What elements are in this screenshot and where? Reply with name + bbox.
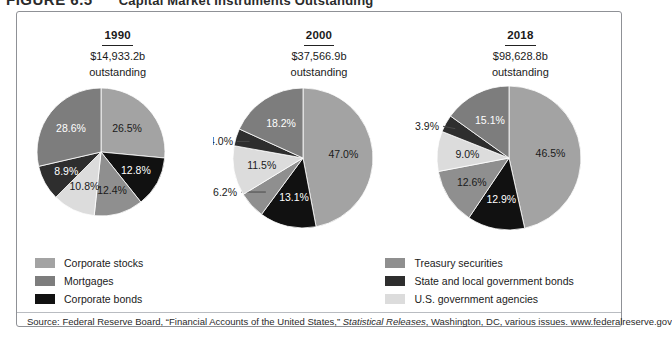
- legend-swatch-icon: [385, 276, 405, 286]
- pie-slice-label: 9.0%: [455, 148, 479, 160]
- year-label: 1990: [102, 27, 132, 46]
- pie-slice-label: 15.1%: [475, 114, 505, 126]
- legend-item-corporate-stocks: Corporate stocks: [35, 255, 143, 271]
- source-prefix: Source: Federal Reserve Board, “Financia…: [27, 316, 343, 327]
- legend-label: Corporate bonds: [64, 293, 142, 305]
- outstanding-label: outstanding: [17, 65, 218, 81]
- source-note: Source: Federal Reserve Board, “Financia…: [27, 316, 613, 327]
- pie-slice-label: 4.0%: [213, 135, 233, 147]
- legend-column-1: Corporate stocks Mortgages Corporate bon…: [35, 255, 143, 309]
- source-italic-title: Statistical Releases: [343, 316, 426, 327]
- chart-header-2018: 2018 $98,628.8b outstanding: [420, 22, 621, 81]
- source-divider: [17, 312, 621, 313]
- pie-slice-label: 28.6%: [56, 122, 86, 134]
- pie-slice-label: 26.5%: [112, 122, 142, 134]
- legend: Corporate stocks Mortgages Corporate bon…: [35, 255, 600, 309]
- pie-svg: 47.0%13.1%6.2%11.5%4.0%18.2%: [213, 80, 409, 248]
- legend-item-treasury-securities: Treasury securities: [385, 255, 573, 271]
- pie-slice-label: 18.2%: [266, 117, 296, 129]
- legend-swatch-icon: [385, 258, 405, 268]
- figure-caption: Capital Market Instruments Outstanding: [119, 0, 374, 8]
- amount-label: $98,628.8b: [420, 49, 621, 65]
- pie-slice-label: 12.6%: [457, 176, 487, 188]
- source-suffix: , Washington, DC, various issues. www.fe…: [426, 316, 672, 327]
- pie-slice-label: 11.5%: [247, 159, 276, 171]
- legend-label: Corporate stocks: [64, 257, 143, 269]
- outstanding-label: outstanding: [420, 65, 621, 81]
- pie-svg: 26.5%12.8%12.4%10.8%8.9%28.6%: [23, 80, 213, 240]
- legend-item-corporate-bonds: Corporate bonds: [35, 291, 143, 307]
- figure-title-strip: FIGURE 6.5 Capital Market Instruments Ou…: [0, 0, 638, 11]
- figure-number: FIGURE 6.5: [6, 0, 93, 8]
- pie-slice-label: 47.0%: [329, 148, 359, 160]
- pie-slice-label: 10.8%: [70, 180, 100, 192]
- legend-item-state-local-government-bonds: State and local government bonds: [385, 273, 573, 289]
- legend-label: Mortgages: [64, 275, 114, 287]
- pie-slice-label: 46.5%: [536, 147, 566, 159]
- legend-label: U.S. government agencies: [414, 293, 538, 305]
- pie-charts-row: 26.5%12.8%12.4%10.8%8.9%28.6% 47.0%13.1%…: [17, 80, 621, 250]
- legend-swatch-icon: [35, 276, 55, 286]
- pie-svg: 46.5%12.9%12.6%9.0%3.9%15.1%: [409, 80, 619, 248]
- amount-label: $37,566.9b: [218, 49, 419, 65]
- legend-swatch-icon: [35, 294, 55, 304]
- year-label: 2018: [505, 27, 535, 46]
- pie-slice-label: 13.1%: [279, 191, 309, 203]
- outstanding-label: outstanding: [218, 65, 419, 81]
- pie-chart-2018: 46.5%12.9%12.6%9.0%3.9%15.1%: [409, 80, 619, 248]
- pie-slice-label: 8.9%: [54, 165, 78, 177]
- legend-label: State and local government bonds: [414, 275, 573, 287]
- legend-item-us-government-agencies: U.S. government agencies: [385, 291, 573, 307]
- pie-slice-label: 12.8%: [121, 164, 151, 176]
- pie-slice-label: 3.9%: [415, 120, 439, 132]
- pie-slice-label: 12.9%: [486, 193, 516, 205]
- pie-chart-2000: 47.0%13.1%6.2%11.5%4.0%18.2%: [213, 80, 409, 248]
- legend-swatch-icon: [35, 258, 55, 268]
- pie-chart-1990: 26.5%12.8%12.4%10.8%8.9%28.6%: [23, 80, 213, 240]
- chart-header-2000: 2000 $37,566.9b outstanding: [218, 22, 419, 81]
- year-label: 2000: [304, 27, 334, 46]
- legend-column-2: Treasury securities State and local gove…: [385, 255, 573, 309]
- amount-label: $14,933.2b: [17, 49, 218, 65]
- legend-item-mortgages: Mortgages: [35, 273, 143, 289]
- figure-frame: 1990 $14,933.2b outstanding 2000 $37,566…: [16, 11, 622, 327]
- legend-swatch-icon: [385, 294, 405, 304]
- chart-header-1990: 1990 $14,933.2b outstanding: [17, 22, 218, 81]
- legend-label: Treasury securities: [414, 257, 502, 269]
- pie-slice-label: 6.2%: [213, 186, 237, 198]
- pie-slice-label: 12.4%: [97, 184, 127, 196]
- chart-headers: 1990 $14,933.2b outstanding 2000 $37,566…: [17, 22, 621, 81]
